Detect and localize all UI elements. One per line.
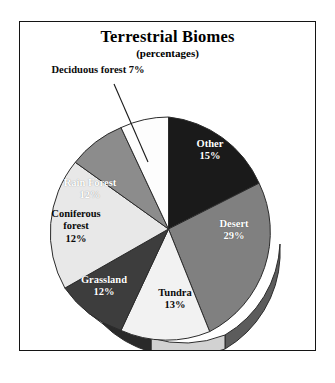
pie-label-deciduous-forest-value: 7% bbox=[129, 64, 145, 75]
pie-slices: Other 15% Desert 29% Tundra 13% Grasslan… bbox=[50, 117, 270, 340]
chart-frame: Terrestrial Biomes (percentages) Other 1… bbox=[19, 21, 316, 351]
pie-chart: Other 15% Desert 29% Tundra 13% Grasslan… bbox=[20, 22, 316, 351]
pie-label-deciduous-forest: Deciduous forest 7% bbox=[28, 64, 168, 77]
pie-label-deciduous-forest-name: Deciduous forest bbox=[51, 64, 126, 75]
